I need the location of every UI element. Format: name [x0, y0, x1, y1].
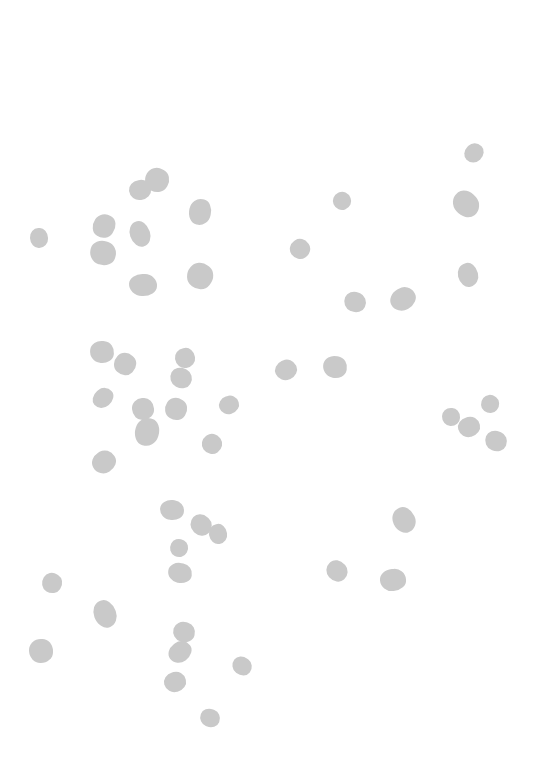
particle-blob: [482, 428, 510, 455]
particle-blob: [207, 523, 228, 546]
particle-blob: [161, 394, 191, 424]
particle-blob: [388, 503, 419, 536]
particle-blob: [131, 397, 154, 420]
particle-blob: [90, 597, 121, 631]
particle-blob: [330, 189, 354, 213]
particle-blob: [386, 283, 420, 315]
particle-blob: [197, 706, 222, 730]
particle-blob: [87, 238, 119, 269]
particle-blob: [126, 218, 153, 249]
particle-image: [0, 0, 554, 780]
particle-blob: [29, 228, 48, 249]
particle-blob: [167, 536, 191, 560]
particle-blob: [322, 556, 352, 586]
particle-blob: [229, 653, 256, 679]
particle-blob: [174, 347, 197, 370]
particle-blob: [89, 340, 116, 365]
particle-blob: [186, 197, 213, 227]
particle-blob: [379, 568, 407, 592]
particle-blob: [29, 639, 53, 663]
particle-blob: [129, 274, 158, 297]
particle-blob: [167, 364, 196, 392]
particle-blob: [166, 561, 193, 585]
particle-blob: [477, 391, 502, 416]
particle-blob: [272, 356, 300, 383]
particle-blob: [89, 384, 117, 412]
particle-blob: [162, 669, 189, 694]
particle-blob: [131, 415, 162, 449]
particle-blob: [286, 235, 314, 263]
particle-blob: [198, 430, 226, 458]
particle-blob: [159, 499, 185, 521]
particle-blob: [182, 258, 219, 295]
particle-blob: [321, 354, 349, 381]
particle-blob: [217, 393, 242, 417]
particle-blob: [455, 261, 480, 289]
particle-blob: [88, 210, 120, 242]
particle-blob: [448, 186, 484, 223]
particle-blob: [461, 140, 488, 167]
particle-blob: [109, 348, 140, 379]
particle-blob: [164, 637, 195, 667]
particle-blob: [38, 569, 66, 597]
particle-blob: [341, 288, 369, 315]
particle-blob: [88, 446, 120, 477]
